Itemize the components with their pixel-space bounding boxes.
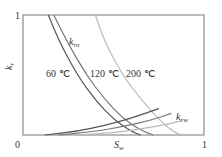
kro-label: kro xyxy=(69,37,79,49)
kro-label-sub: ro xyxy=(73,41,79,49)
y-axis-label-sub: r xyxy=(8,63,16,66)
y-tick-1: 1 xyxy=(15,11,20,21)
temp-label-200: 200 ℃ xyxy=(126,69,155,79)
x-axis-label: Sw xyxy=(114,140,124,152)
y-axis-label: kr xyxy=(4,63,16,70)
x-tick-1: 1 xyxy=(202,140,207,150)
temp-label-120: 120 ℃ xyxy=(90,69,119,79)
x-axis-label-sub: w xyxy=(119,144,124,152)
temp-label-60: 60 ℃ xyxy=(46,69,70,79)
krw-label: krw xyxy=(176,112,188,124)
krw-label-sub: rw xyxy=(180,116,187,124)
origin-tick-0: 0 xyxy=(15,140,20,150)
y-axis-label-main: k xyxy=(3,66,14,70)
